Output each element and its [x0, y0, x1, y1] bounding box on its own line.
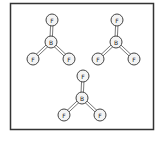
atom-label: F [31, 56, 35, 63]
atom-label: F [67, 56, 71, 63]
atom-label: B [114, 39, 118, 46]
fluorine-atom: F [63, 53, 75, 65]
atom-label: F [98, 112, 102, 119]
atom-label: F [62, 112, 66, 119]
atom-label: F [50, 17, 54, 24]
atom-label: F [96, 56, 100, 63]
fluorine-atom: F [111, 14, 123, 26]
fluorine-atom: F [46, 14, 58, 26]
fluorine-atom: F [94, 109, 106, 121]
bf3-molecule: FFFB [27, 14, 75, 65]
diagram-canvas: FFFBFFFBFFFB [0, 0, 160, 142]
atom-label: B [80, 95, 84, 102]
bf3-molecule: FFFB [58, 70, 106, 121]
boron-atom: B [45, 36, 57, 48]
boron-atom: B [76, 92, 88, 104]
fluorine-atom: F [77, 70, 89, 82]
atom-label: F [132, 56, 136, 63]
fluorine-atom: F [92, 53, 104, 65]
atom-label: B [49, 39, 53, 46]
fluorine-atom: F [58, 109, 70, 121]
fluorine-atom: F [128, 53, 140, 65]
atom-label: F [115, 17, 119, 24]
frame-border [11, 4, 154, 130]
atom-label: F [81, 73, 85, 80]
bf3-molecule: FFFB [92, 14, 140, 65]
boron-atom: B [110, 36, 122, 48]
fluorine-atom: F [27, 53, 39, 65]
